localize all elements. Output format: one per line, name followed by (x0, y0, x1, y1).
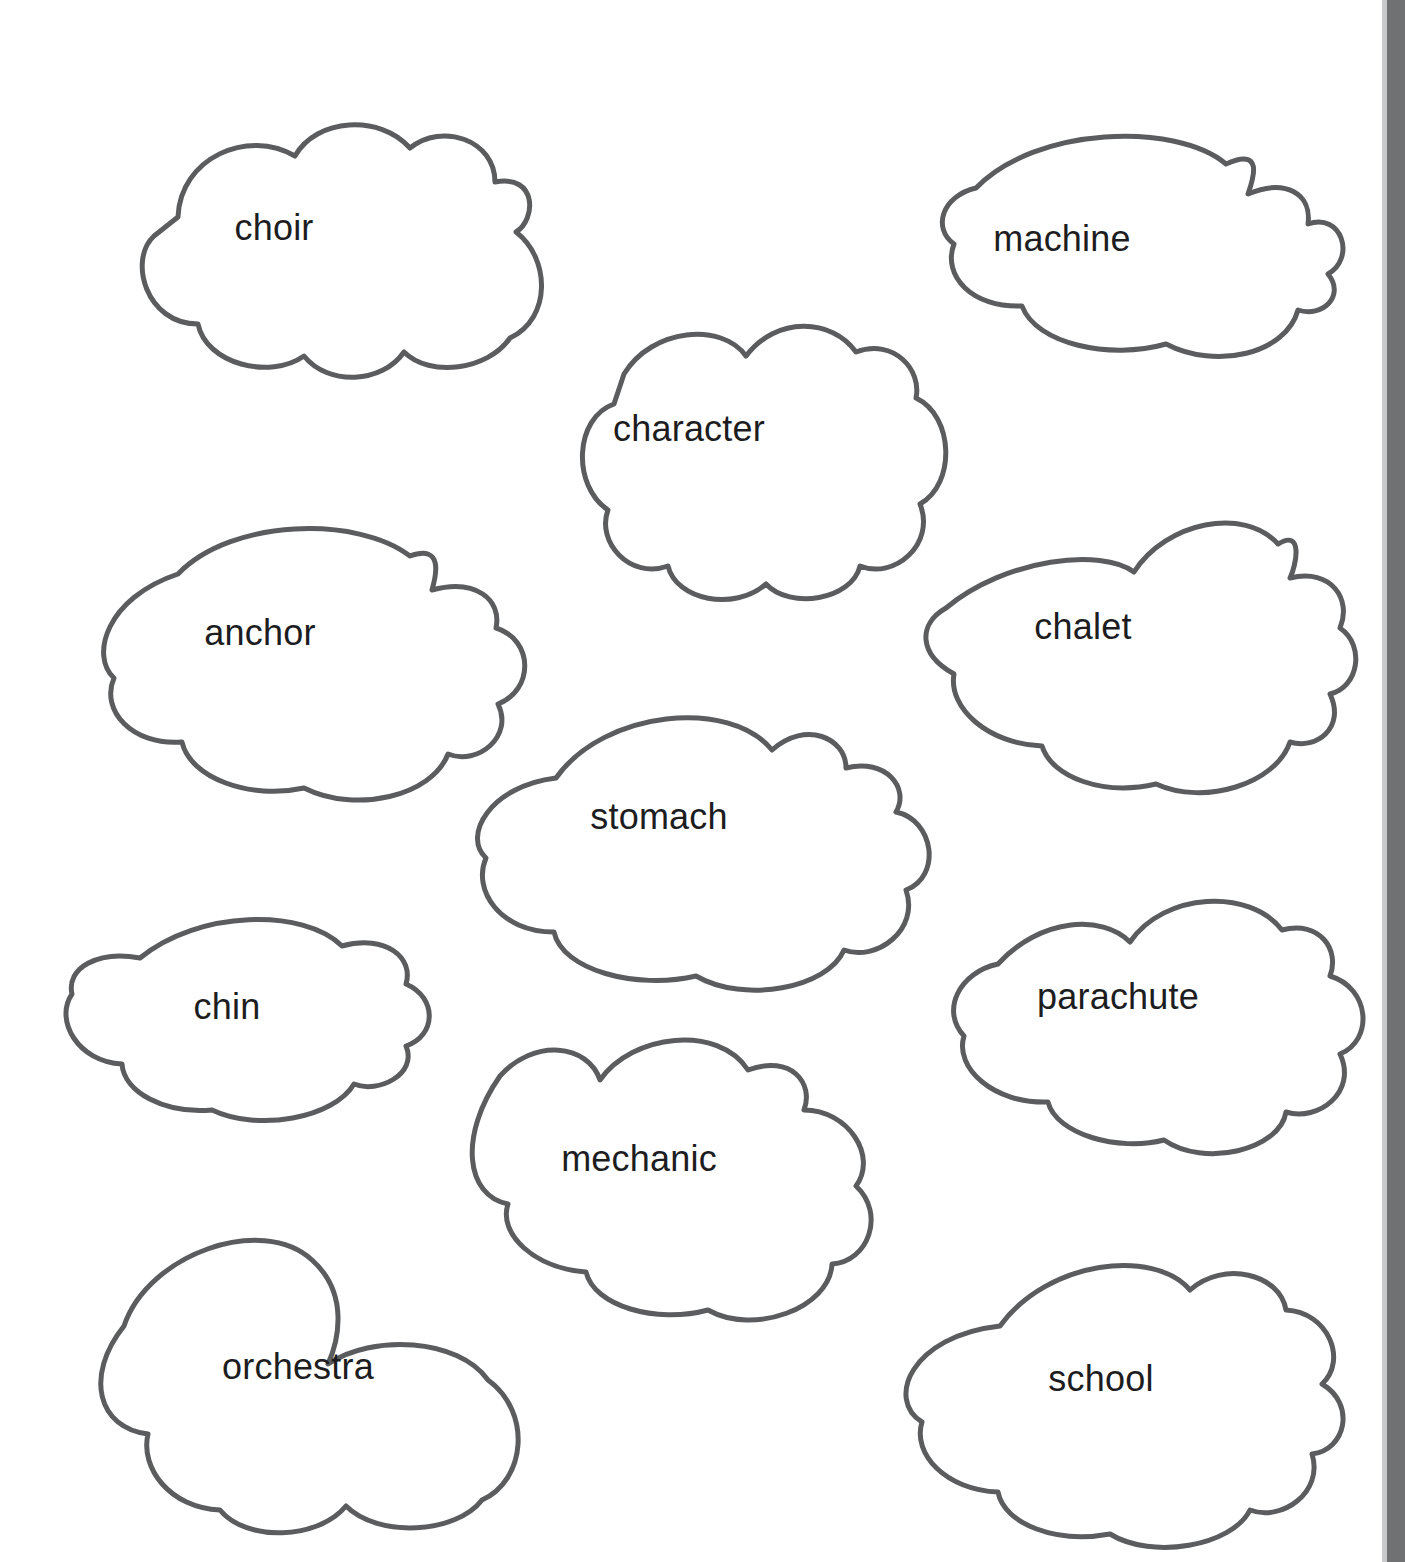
cloud-stomach-outline (414, 676, 904, 956)
cloud-school-outline (866, 1238, 1336, 1518)
cloud-orchestra[interactable]: orchestra (62, 1198, 534, 1518)
cloud-chalet[interactable]: chalet (846, 488, 1320, 770)
worksheet-page: choirmachinecharacteranchorchaletstomach… (0, 0, 1405, 1562)
cloud-choir[interactable]: choir (58, 62, 490, 332)
cloud-character-outline (484, 288, 894, 568)
cloud-school[interactable]: school (866, 1238, 1336, 1518)
scan-edge-band (1387, 0, 1405, 1562)
cloud-parachute-outline (888, 876, 1348, 1138)
cloud-chalet-outline (846, 488, 1320, 770)
cloud-machine-outline (846, 108, 1278, 338)
cloud-parachute[interactable]: parachute (888, 876, 1348, 1138)
cloud-stomach[interactable]: stomach (414, 676, 904, 956)
cloud-orchestra-outline (62, 1198, 534, 1518)
cloud-chin-outline (48, 896, 406, 1114)
cloud-choir-outline (58, 62, 490, 332)
cloud-machine[interactable]: machine (846, 108, 1278, 338)
cloud-character[interactable]: character (484, 288, 894, 568)
cloud-chin[interactable]: chin (48, 896, 406, 1114)
